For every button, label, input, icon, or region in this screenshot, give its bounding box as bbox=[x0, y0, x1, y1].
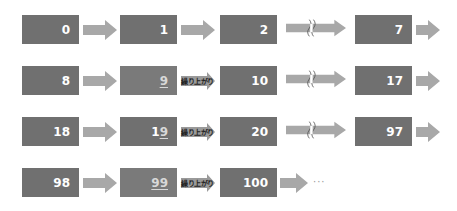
number-label: 97 bbox=[386, 125, 403, 139]
ellipsis: ··· bbox=[313, 176, 326, 187]
carry-label: 繰り上がり bbox=[181, 178, 214, 188]
arrow-right-icon bbox=[83, 122, 117, 142]
carry-label: 繰り上がり bbox=[181, 127, 214, 137]
number-label: 100 bbox=[243, 176, 268, 190]
arrow-right-icon bbox=[83, 20, 117, 40]
arrow-right-icon bbox=[416, 122, 440, 142]
arrow-right-icon bbox=[416, 71, 440, 91]
underlined-digit: 99 bbox=[151, 176, 168, 190]
break-arrow-icon bbox=[280, 18, 352, 38]
number-box-7: 7 bbox=[355, 15, 412, 44]
arrow-right-icon bbox=[83, 173, 117, 193]
number-label: 18 bbox=[53, 125, 70, 139]
number-box-20: 20 bbox=[220, 117, 277, 146]
number-label: 8 bbox=[62, 74, 70, 88]
arrow-right-icon bbox=[181, 20, 215, 40]
carry-arrow: 繰り上がり bbox=[181, 72, 215, 90]
number-label: 20 bbox=[251, 125, 268, 139]
number-label: 7 bbox=[395, 23, 403, 37]
number-box-99: 99 bbox=[120, 168, 177, 197]
number-box-8: 8 bbox=[22, 66, 79, 95]
carry-arrow: 繰り上がり bbox=[181, 123, 215, 141]
number-box-97: 97 bbox=[355, 117, 412, 146]
number-label: 10 bbox=[251, 74, 268, 88]
number-box-9: 9 bbox=[120, 66, 177, 95]
break-arrow-icon bbox=[280, 69, 352, 89]
underlined-digit: 9 bbox=[160, 74, 168, 88]
number-box-10: 10 bbox=[220, 66, 277, 95]
arrow-right-icon bbox=[83, 71, 117, 91]
number-box-19: 19 bbox=[120, 117, 177, 146]
number-prefix: 1 bbox=[151, 125, 159, 139]
number-label: 1 bbox=[160, 23, 168, 37]
number-box-0: 0 bbox=[22, 15, 79, 44]
break-arrow-icon bbox=[280, 120, 352, 140]
number-label: 0 bbox=[62, 23, 70, 37]
arrow-right-icon bbox=[416, 20, 440, 40]
number-box-2: 2 bbox=[220, 15, 277, 44]
number-box-17: 17 bbox=[355, 66, 412, 95]
number-label: 98 bbox=[53, 176, 70, 190]
number-label: 17 bbox=[386, 74, 403, 88]
underlined-digit: 9 bbox=[160, 125, 168, 139]
number-box-18: 18 bbox=[22, 117, 79, 146]
arrow-right-icon bbox=[280, 173, 308, 193]
number-box-1: 1 bbox=[120, 15, 177, 44]
number-box-98: 98 bbox=[22, 168, 79, 197]
number-label: 2 bbox=[260, 23, 268, 37]
number-box-100: 100 bbox=[220, 168, 277, 197]
carry-label: 繰り上がり bbox=[181, 76, 214, 86]
carry-arrow: 繰り上がり bbox=[181, 174, 215, 192]
